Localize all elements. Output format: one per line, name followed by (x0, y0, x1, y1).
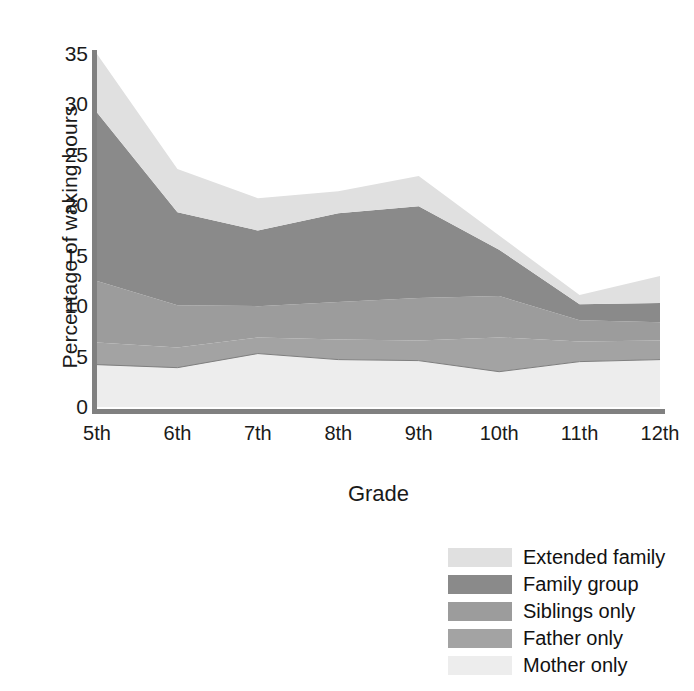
x-axis-tick-label: 8th (293, 421, 383, 445)
y-axis-tick-label: 35 (38, 43, 88, 64)
x-axis-title: Grade (97, 481, 660, 507)
legend-item-label: Father only (523, 627, 623, 649)
x-axis-tick-label: 5th (52, 421, 142, 445)
legend-swatch-icon (448, 575, 512, 594)
x-axis-tick-label: 10th (454, 421, 544, 445)
legend-item[interactable]: Mother only (448, 652, 688, 678)
legend-item-label: Family group (523, 573, 639, 595)
area-series-family-group (97, 113, 660, 323)
legend-swatch-icon (448, 602, 512, 621)
legend-item[interactable]: Extended family (448, 544, 688, 570)
x-axis-tick-label: 6th (132, 421, 222, 445)
legend-item-label: Extended family (523, 546, 665, 568)
x-axis-tick-label: 7th (213, 421, 303, 445)
legend-swatch-icon (448, 629, 512, 648)
legend-item-label: Mother only (523, 654, 628, 676)
legend-item[interactable]: Father only (448, 625, 688, 651)
x-axis-line (92, 409, 665, 414)
y-axis-tick-label: 10 (38, 295, 88, 316)
x-axis-tick-labels: 5th6th7th8th9th10th11th12th (97, 421, 660, 451)
legend-swatch-icon (448, 548, 512, 567)
x-axis-tick-label: 9th (374, 421, 464, 445)
plot-area (97, 54, 660, 407)
y-axis-tick-label: 30 (38, 93, 88, 114)
y-axis-tick-labels: 05101520253035 (38, 0, 88, 691)
x-axis-tick-label: 12th (615, 421, 694, 445)
legend-item-label: Siblings only (523, 600, 635, 622)
legend-swatch-icon (448, 656, 512, 675)
y-axis-tick-label: 0 (38, 396, 88, 417)
y-axis-tick-label: 25 (38, 144, 88, 165)
x-axis-tick-label: 11th (535, 421, 625, 445)
stacked-area-plot (97, 54, 660, 407)
chart-figure: Percentage of waking hours 0510152025303… (0, 0, 694, 691)
y-axis-tick-label: 20 (38, 194, 88, 215)
legend-item[interactable]: Family group (448, 571, 688, 597)
chart-legend: Extended familyFamily groupSiblings only… (448, 544, 688, 679)
y-axis-tick-label: 15 (38, 245, 88, 266)
y-axis-tick-label: 5 (38, 346, 88, 367)
legend-item[interactable]: Siblings only (448, 598, 688, 624)
